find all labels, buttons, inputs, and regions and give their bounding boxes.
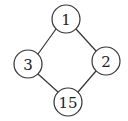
node-15: 15 <box>54 88 82 116</box>
node-label: 15 <box>58 94 77 112</box>
node-label: 1 <box>61 11 71 29</box>
node-1: 1 <box>52 5 80 33</box>
node-3: 3 <box>14 50 42 78</box>
edge-3-15 <box>38 74 58 92</box>
edge-1-2 <box>76 29 96 51</box>
node-label: 3 <box>23 56 33 74</box>
edge-2-15 <box>78 71 96 92</box>
edge-1-3 <box>38 29 56 54</box>
hasse-diagram: 1 3 2 15 <box>0 0 128 121</box>
node-2: 2 <box>92 47 120 75</box>
node-label: 2 <box>101 53 111 71</box>
